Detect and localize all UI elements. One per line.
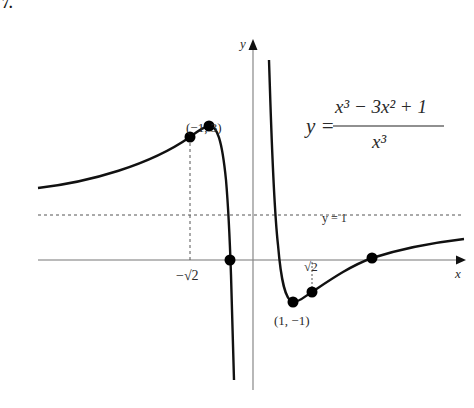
equation-numerator: x³ − 3x² + 1 (334, 96, 427, 117)
equation-denominator: x³ (371, 131, 386, 152)
label-local-max: (−1, 3) (186, 120, 222, 135)
label-local-min: (1, −1) (274, 313, 310, 328)
label-neg-sqrt2: −√2 (176, 268, 199, 283)
function-graph: (−1, 3) (1, −1) y = 1 −√2 √2 x y y = x³ … (0, 0, 474, 408)
y-axis-arrow-icon (249, 39, 258, 50)
equation-lhs: y = (304, 114, 335, 138)
x-axis-arrow-icon (456, 256, 466, 265)
point-local-min (288, 297, 299, 308)
label-asymptote: y = 1 (322, 211, 347, 225)
label-pos-sqrt2: √2 (304, 259, 318, 274)
label-x-axis: x (454, 266, 461, 281)
label-y-axis: y (238, 36, 246, 51)
point-x-intercept-right (367, 253, 378, 264)
curve-left-branch (38, 126, 234, 380)
point-x-intercept-left (225, 255, 236, 266)
point-inflection-right (307, 287, 318, 298)
